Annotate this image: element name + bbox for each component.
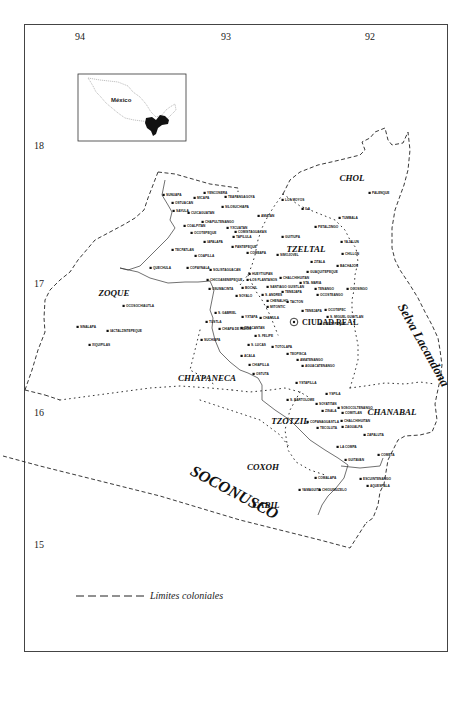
inset-label: México xyxy=(111,97,132,103)
colonial-chiapas-map: 94939218171615 México xyxy=(0,0,472,713)
town: PETALZINGO xyxy=(315,225,339,229)
town-label: STA. MARIA xyxy=(303,281,322,285)
town-square-icon xyxy=(347,288,349,290)
town: CHAPULTENANGO xyxy=(202,220,235,224)
town: LOS MOYOS xyxy=(282,198,305,202)
town: IAPALAPA xyxy=(204,240,224,244)
town-label: TAPILULA xyxy=(236,235,252,239)
town: OSTUACAN xyxy=(172,201,194,205)
town: TECPATLAN xyxy=(172,248,195,252)
town-square-icon xyxy=(267,300,269,302)
inset-mexico: México xyxy=(78,74,186,141)
town-square-icon xyxy=(241,355,243,357)
town-square-icon xyxy=(150,267,152,269)
town-square-icon xyxy=(163,194,165,196)
town: AMATENANGO xyxy=(297,358,324,362)
town: TEOPISCA xyxy=(287,352,307,356)
town-square-icon xyxy=(204,241,206,243)
town: SOYALO xyxy=(236,294,253,298)
town-square-icon xyxy=(277,254,279,256)
town-square-icon xyxy=(107,330,109,332)
town-label: TECOLUTA xyxy=(320,426,338,430)
town-label: COPANAGUASTLA xyxy=(310,420,340,424)
town-square-icon xyxy=(202,221,204,223)
town-square-icon xyxy=(184,225,186,227)
town-label: GUAQUITEPEQUE xyxy=(310,270,338,274)
town-square-icon xyxy=(195,255,197,257)
town-label: TUSTLA xyxy=(209,320,222,324)
town-square-icon xyxy=(248,344,250,346)
town-square-icon xyxy=(302,310,304,312)
town-square-icon xyxy=(209,288,211,290)
town-label: COMALAPA xyxy=(318,476,337,480)
town-square-icon xyxy=(172,202,174,204)
town: BACHAJON xyxy=(337,264,359,268)
town-label: COMETA xyxy=(381,453,395,457)
town-label: QUECHULA xyxy=(153,266,172,270)
town: TENEJAPA xyxy=(302,309,323,313)
town: OCOSTEANGO xyxy=(317,293,344,297)
town: AMATAN xyxy=(258,214,276,218)
town-square-icon xyxy=(325,309,327,311)
town: COAPILLA xyxy=(195,254,215,258)
town-square-icon xyxy=(282,199,284,201)
town-square-icon xyxy=(206,321,208,323)
town: BOCHIL xyxy=(242,286,258,290)
town-label: CHIAPILLA xyxy=(252,363,270,367)
town-label: OSTUTA xyxy=(256,372,270,376)
town-label: ACALA xyxy=(244,354,256,358)
town-label: CHENALHO xyxy=(270,299,289,303)
town-label: AQUESPALA xyxy=(370,484,390,488)
town-square-icon xyxy=(262,294,264,296)
town-square-icon xyxy=(345,459,347,461)
coordinate-label: 16 xyxy=(34,407,44,418)
town-label: MITONTIC xyxy=(270,305,286,309)
town-label: ZAPALUTA xyxy=(367,433,384,437)
town-square-icon xyxy=(194,197,196,199)
town-square-icon xyxy=(89,344,91,346)
town: YSPILA xyxy=(326,392,342,396)
town: S. LUCAS xyxy=(248,343,266,347)
town-square-icon xyxy=(297,359,299,361)
town: OCOSOCHIAUTLA xyxy=(123,304,155,308)
town: HUEYTIUPAN xyxy=(249,272,274,276)
town: ZISALA xyxy=(322,409,338,413)
town: CHIAPA DE INDIOS xyxy=(219,327,252,331)
town: QUECHULA xyxy=(150,266,172,270)
town-label: TOTOLAPA xyxy=(275,345,293,349)
town-label: CHILLON xyxy=(345,252,360,256)
town: S. BARTOLOME xyxy=(287,398,315,402)
town-square-icon xyxy=(287,353,289,355)
town-square-icon xyxy=(235,231,237,233)
town: OCOSINGO xyxy=(347,287,369,291)
town-square-icon xyxy=(315,226,317,228)
town-label: TENEJAPA xyxy=(285,290,302,294)
town: ACALA xyxy=(241,354,256,358)
town-square-icon xyxy=(339,217,341,219)
town-square-icon xyxy=(267,286,269,288)
town: LA COMPA xyxy=(337,445,358,449)
coordinate-label: 93 xyxy=(221,31,231,42)
capital-label: CIUDAD REAL xyxy=(302,318,358,327)
town-label: SOYALO xyxy=(239,294,253,298)
town: TECOLUTA xyxy=(317,426,338,430)
town-label: OCOSINGO xyxy=(350,287,368,291)
town-square-icon xyxy=(316,403,318,405)
region-label: ZOQUE xyxy=(98,288,130,298)
town-label: XIQUIPILAS xyxy=(92,343,110,347)
town: SILOSUCHIAPA xyxy=(222,205,250,209)
region-label: COXOH xyxy=(247,462,280,472)
town: ESCUINTENANGO xyxy=(360,477,392,481)
town-label: CHAMULA xyxy=(263,316,280,320)
town: CHIOUIMUZELO xyxy=(319,488,348,492)
town: SUNUAPA xyxy=(163,193,183,197)
town-square-icon xyxy=(369,192,371,194)
town: GUAQUITEPEQUE xyxy=(307,270,338,274)
town-square-icon xyxy=(299,489,301,491)
town: YENCONERA xyxy=(204,191,229,195)
town-square-icon xyxy=(232,246,234,248)
town-square-icon xyxy=(315,477,317,479)
town-square-icon xyxy=(242,287,244,289)
town: CHALCHIHUITAN xyxy=(280,276,310,280)
town-square-icon xyxy=(317,427,319,429)
